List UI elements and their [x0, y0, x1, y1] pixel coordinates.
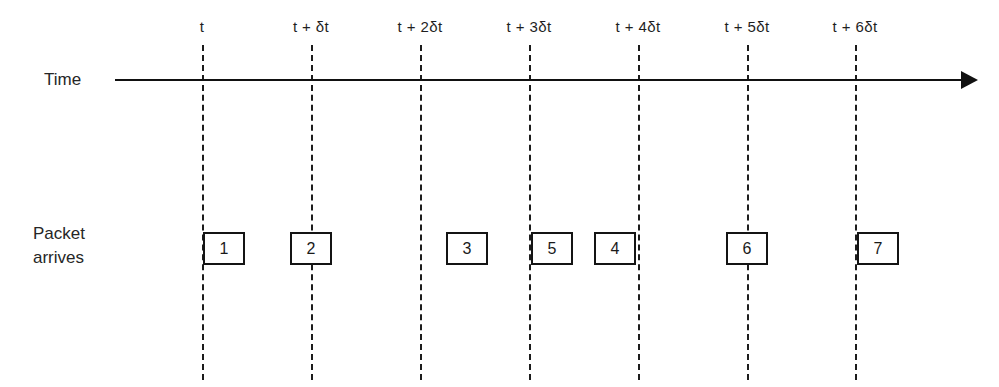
tick-label-5: t + 5δt: [725, 18, 770, 36]
tick-label-6: t + 6δt: [833, 18, 878, 36]
time-axis-line: [115, 79, 967, 81]
packet-arrival-timeline-diagram: tt + δtt + 2δtt + 3δtt + 4δtt + 5δtt + 6…: [0, 0, 999, 387]
packet-box-1: 1: [203, 232, 245, 265]
packet-number-label: 1: [220, 240, 229, 258]
tick-label-1: t + δt: [293, 18, 329, 36]
packet-number-label: 5: [548, 240, 557, 258]
tick-label-2: t + 2δt: [398, 18, 443, 36]
packet-number-label: 4: [611, 240, 620, 258]
time-axis-arrow-icon: [961, 71, 978, 89]
tick-label-4: t + 4δt: [616, 18, 661, 36]
packet-number-label: 3: [463, 240, 472, 258]
tick-line-5: [747, 45, 749, 380]
packet-box-4: 4: [594, 232, 636, 265]
tick-label-3: t + 3δt: [507, 18, 552, 36]
tick-line-6: [855, 45, 857, 380]
packet-arrives-label: Packet arrives: [33, 222, 85, 270]
packet-number-label: 2: [307, 240, 316, 258]
tick-line-2: [420, 45, 422, 380]
packet-number-label: 7: [874, 240, 883, 258]
packet-box-7: 7: [857, 232, 899, 265]
tick-line-0: [202, 45, 204, 380]
time-axis-label: Time: [44, 68, 81, 92]
packet-number-label: 6: [743, 240, 752, 258]
tick-line-4: [638, 45, 640, 380]
packet-box-2: 2: [290, 232, 332, 265]
packet-box-6: 6: [726, 232, 768, 265]
packet-box-3: 3: [446, 232, 488, 265]
tick-label-0: t: [200, 18, 205, 36]
tick-line-1: [311, 45, 313, 380]
packet-box-5: 5: [531, 232, 573, 265]
tick-line-3: [529, 45, 531, 380]
